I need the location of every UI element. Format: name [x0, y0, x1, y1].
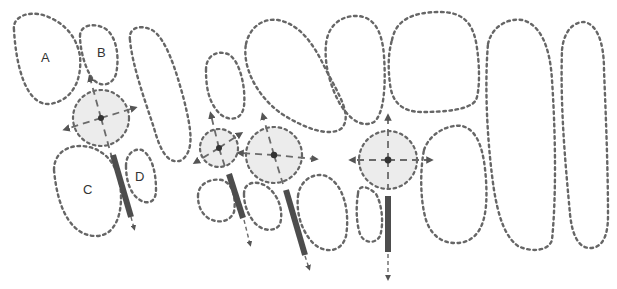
cell-small-bottom [198, 180, 235, 222]
label-a: A [41, 50, 50, 65]
group-3 [326, 12, 608, 278]
cell-small-top [206, 53, 244, 119]
growth-arrow-3 [305, 256, 309, 268]
cell-tall-1 [130, 27, 191, 161]
label-d: D [135, 169, 144, 184]
label-c: C [83, 182, 92, 197]
center-dot-2 [216, 145, 222, 151]
center-dot-1 [98, 115, 104, 121]
center-dot-4 [385, 157, 392, 164]
growth-bar-3 [286, 190, 305, 255]
group-2 [196, 20, 347, 268]
cell-bottom-left [357, 187, 382, 242]
cell-big-top [245, 20, 345, 132]
growth-bar-2 [229, 174, 243, 218]
cell-tall-right-2 [562, 22, 608, 248]
growth-arrow-2 [244, 220, 250, 244]
label-b: B [97, 45, 106, 60]
cell-mid-bottom [244, 183, 281, 230]
cell-top-mid [326, 16, 385, 124]
cell-division-diagram: A B C D [0, 0, 617, 289]
cell-tall-right-1 [486, 20, 555, 250]
growth-arrow-1 [131, 217, 134, 228]
cell-top-round [389, 12, 479, 112]
cell-bottom-round [421, 126, 486, 243]
center-dot-3 [271, 152, 277, 158]
cell-tall-bottom [298, 175, 348, 250]
